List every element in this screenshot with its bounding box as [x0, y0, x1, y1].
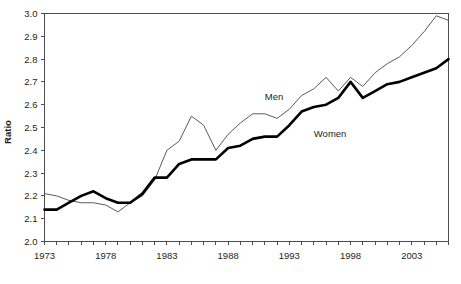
y-tick-label: 2.6: [24, 99, 37, 110]
series-line-men: [45, 16, 449, 212]
y-tick-label: 3.0: [24, 8, 37, 19]
chart-container: 2.02.12.22.32.42.52.62.72.82.93.0 197319…: [0, 0, 461, 284]
x-axis-ticks: [45, 242, 449, 246]
x-tick-label: 1998: [340, 250, 361, 261]
series-inline-labels: MenWomen: [265, 91, 347, 138]
series-line-women: [45, 59, 449, 209]
y-tick-label: 2.2: [24, 190, 37, 201]
y-axis-tick-labels: 2.02.12.22.32.42.52.62.72.82.93.0: [24, 8, 37, 247]
y-tick-label: 2.9: [24, 31, 37, 42]
y-tick-label: 2.8: [24, 54, 37, 65]
y-tick-label: 2.4: [24, 145, 37, 156]
y-tick-label: 2.7: [24, 76, 37, 87]
x-tick-label: 2003: [401, 250, 422, 261]
axis-frame: [45, 14, 449, 242]
x-axis-tick-labels: 1973197819831988199319982003: [34, 250, 422, 261]
x-tick-label: 1988: [218, 250, 239, 261]
y-tick-label: 2.5: [24, 122, 37, 133]
y-axis-title: Ratio: [2, 120, 13, 144]
data-series-group: [45, 16, 449, 212]
chart-axes: [41, 14, 449, 246]
y-tick-label: 2.0: [24, 236, 37, 247]
x-tick-label: 1983: [156, 250, 177, 261]
x-tick-label: 1993: [279, 250, 300, 261]
x-tick-label: 1978: [95, 250, 116, 261]
y-axis-ticks: [41, 14, 45, 242]
ratio-line-chart: 2.02.12.22.32.42.52.62.72.82.93.0 197319…: [0, 0, 461, 284]
y-tick-label: 2.3: [24, 168, 37, 179]
series-label-women: Women: [314, 128, 347, 139]
series-label-men: Men: [265, 91, 283, 102]
x-tick-label: 1973: [34, 250, 55, 261]
y-tick-label: 2.1: [24, 213, 37, 224]
